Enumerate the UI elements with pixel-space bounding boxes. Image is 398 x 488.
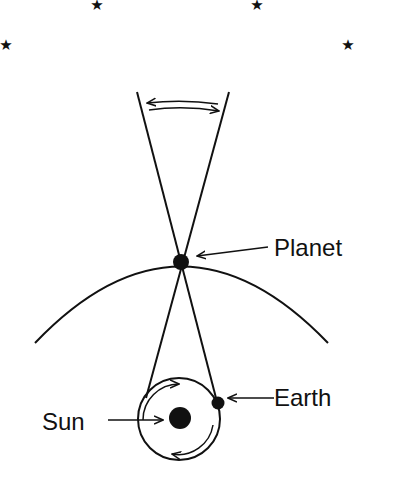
sun-dot	[169, 407, 191, 429]
background-stars: ★ ★ ★ ★	[0, 0, 355, 54]
planet-dot	[173, 254, 189, 270]
earth-dot	[212, 397, 225, 410]
star-icon: ★	[0, 36, 13, 54]
earth-label: Earth	[274, 384, 331, 411]
planet-label: Planet	[274, 234, 342, 261]
apparent-shift-arrows	[147, 101, 219, 111]
star-icon: ★	[341, 36, 354, 54]
lines-of-sight	[137, 92, 229, 398]
parallax-diagram: ★ ★ ★ ★ Planet Sun Earth	[0, 0, 398, 488]
diagram-svg: ★ ★ ★ ★ Planet Sun Earth	[0, 0, 398, 488]
planet-orbit-arc	[35, 267, 328, 344]
star-icon: ★	[250, 0, 263, 14]
sun-label: Sun	[42, 408, 85, 435]
planet-pointer-arrow	[197, 247, 268, 256]
star-icon: ★	[90, 0, 103, 14]
